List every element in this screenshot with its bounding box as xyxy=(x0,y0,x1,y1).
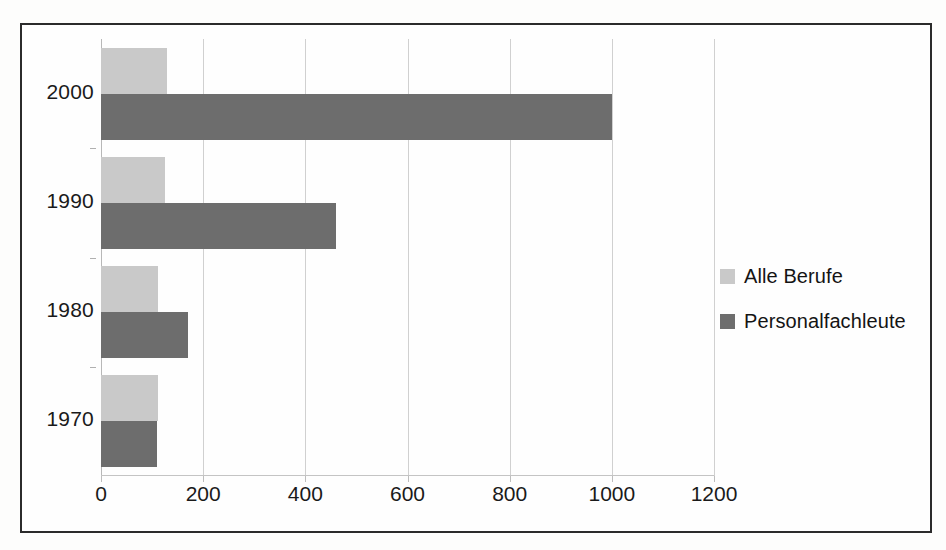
x-axis-label-1200: 1200 xyxy=(691,482,738,506)
bar-1970-alle-berufe xyxy=(101,375,158,421)
bar-group-2000 xyxy=(101,39,714,148)
bar-1990-alle-berufe xyxy=(101,157,165,203)
bar-group-1990 xyxy=(101,148,714,257)
x-axis-labels: 020040060080010001200 xyxy=(101,482,714,518)
chart-screenshot: 2000199019801970 020040060080010001200 A… xyxy=(0,0,946,550)
y-axis-label-1970: 1970 xyxy=(46,407,94,431)
legend-swatch-icon xyxy=(720,269,735,284)
legend-item-personalfachleute: Personalfachleute xyxy=(720,310,920,333)
y-axis-label-2000: 2000 xyxy=(46,80,94,104)
bar-1970-personalfachleute xyxy=(101,421,157,467)
bar-2000-alle-berufe xyxy=(101,48,167,94)
bar-1980-personalfachleute xyxy=(101,312,188,358)
x-axis-tick-1200 xyxy=(714,476,715,482)
y-axis-tick xyxy=(90,258,96,259)
x-axis-label-200: 200 xyxy=(186,482,221,506)
legend: Alle BerufePersonalfachleute xyxy=(720,265,920,355)
x-axis-label-0: 0 xyxy=(95,482,107,506)
y-axis-tick xyxy=(90,148,96,149)
legend-item-alle-berufe: Alle Berufe xyxy=(720,265,920,288)
bar-1980-alle-berufe xyxy=(101,266,158,312)
legend-swatch-icon xyxy=(720,314,735,329)
y-axis-label-1990: 1990 xyxy=(46,189,94,213)
x-axis-label-400: 400 xyxy=(288,482,323,506)
bar-1990-personalfachleute xyxy=(101,203,336,249)
bar-group-1970 xyxy=(101,367,714,476)
legend-label: Alle Berufe xyxy=(744,265,843,288)
x-axis-label-1000: 1000 xyxy=(588,482,635,506)
bar-2000-personalfachleute xyxy=(101,94,612,140)
chart-frame: 2000199019801970 020040060080010001200 A… xyxy=(20,23,932,533)
x-axis-tick-0 xyxy=(101,476,102,482)
x-axis-tick-800 xyxy=(510,476,511,482)
x-axis-label-600: 600 xyxy=(390,482,425,506)
x-axis-tick-200 xyxy=(203,476,204,482)
x-axis-tick-600 xyxy=(408,476,409,482)
y-axis-label-1980: 1980 xyxy=(46,298,94,322)
plot-area xyxy=(101,39,714,476)
gridline-1200 xyxy=(714,39,715,476)
y-axis-tick xyxy=(90,367,96,368)
legend-label: Personalfachleute xyxy=(744,310,906,333)
x-axis-tick-1000 xyxy=(612,476,613,482)
x-axis-label-800: 800 xyxy=(492,482,527,506)
y-axis-labels: 2000199019801970 xyxy=(32,39,94,476)
x-axis-tick-400 xyxy=(305,476,306,482)
bar-group-1980 xyxy=(101,258,714,367)
